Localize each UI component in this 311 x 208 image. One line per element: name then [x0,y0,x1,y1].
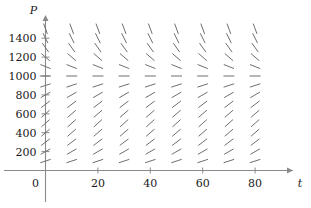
slope-segment [119,65,129,69]
y-ticks-group: 200400600800100012001400 [9,32,50,158]
slope-segment [198,139,207,146]
slope-segment [250,92,260,98]
slope-segment [226,43,232,52]
slope-segment [120,54,128,61]
slope-segment [199,120,207,127]
slope-segment [146,139,155,146]
slope-segment [250,84,260,87]
slope-segment [225,110,233,117]
y-tick-label: 600 [16,108,37,121]
slope-segment [200,33,205,43]
slope-segment [198,92,208,98]
y-axis-label: P [29,4,38,17]
slope-segment [171,84,181,87]
slope-segment [197,159,207,162]
slope-segment [251,120,259,127]
slope-segment [66,159,76,162]
slope-segment [251,101,260,108]
y-tick-label: 400 [16,127,37,140]
y-tick-label: 800 [16,89,37,102]
slope-segment [120,139,129,146]
slope-segment [120,101,129,108]
slope-segment [250,149,260,155]
slope-segment [69,33,74,43]
slope-segment [171,159,181,162]
slope-segment [172,129,180,136]
slope-segment [119,92,129,98]
x-tick-label: 60 [196,177,210,190]
slope-segment [67,149,77,155]
slope-segment [171,65,181,69]
x-axis-label: t [298,177,303,190]
slope-segment [251,139,260,146]
slope-segment [120,120,128,127]
y-tick-label: 200 [16,146,37,159]
slope-segment [146,92,156,98]
slope-segments-group [40,24,261,163]
slope-segment [68,120,76,127]
slope-segment [146,120,154,127]
slope-segment [145,159,155,162]
slope-segment [145,65,155,69]
slope-segment [120,129,128,136]
slope-segment [68,129,76,136]
slope-segment [226,33,231,43]
slope-segment [93,65,103,69]
slope-segment [93,84,103,87]
slope-segment [69,43,75,52]
slope-segment [94,101,103,108]
slope-segment [120,110,128,117]
slope-segment [172,101,181,108]
slope-segment [224,65,234,69]
x-tick-label: 40 [143,177,157,190]
slope-segment [93,92,103,98]
slope-segment [146,149,156,155]
slope-segment [119,159,129,162]
y-tick-label: 1000 [9,70,37,83]
slope-segment [146,54,154,61]
slope-segment [201,24,205,34]
x-tick-label: 20 [91,177,105,190]
slope-segment [146,129,154,136]
slope-segment [197,84,207,87]
slope-segment [200,43,206,52]
slope-segment [147,43,153,52]
slope-segment [68,54,76,61]
slope-segment [224,149,234,155]
slope-segment [172,110,180,117]
slope-segment [172,54,180,61]
slope-segment [225,101,234,108]
slope-segment [227,24,231,34]
slope-segment [95,43,101,52]
slope-segment [119,149,129,155]
slope-segment [198,149,208,155]
slope-segment [172,149,182,155]
slope-segment [224,84,234,87]
slope-segment [94,129,102,136]
slope-segment [70,24,74,34]
slope-segment [93,159,103,162]
slope-segment [251,110,259,117]
slope-segment [250,65,260,69]
slope-segment [67,65,77,69]
slope-segment [93,149,103,155]
y-tick-label: 1400 [9,32,37,45]
slope-segment [148,33,153,43]
slope-segment [225,139,234,146]
slope-segment [121,43,127,52]
slope-segment [198,101,207,108]
slope-segment [148,24,152,34]
slope-segment [172,120,180,127]
slope-segment [145,84,155,87]
slope-segment [122,33,127,43]
slope-segment [252,43,258,52]
slope-segment [94,139,103,146]
slope-segment [225,54,233,61]
slope-segment [225,120,233,127]
y-axis-arrow [43,15,49,21]
slope-segment [250,159,260,162]
slope-segment [199,110,207,117]
slope-segment [94,110,102,117]
slope-segment [251,129,259,136]
slope-segment [94,54,102,61]
